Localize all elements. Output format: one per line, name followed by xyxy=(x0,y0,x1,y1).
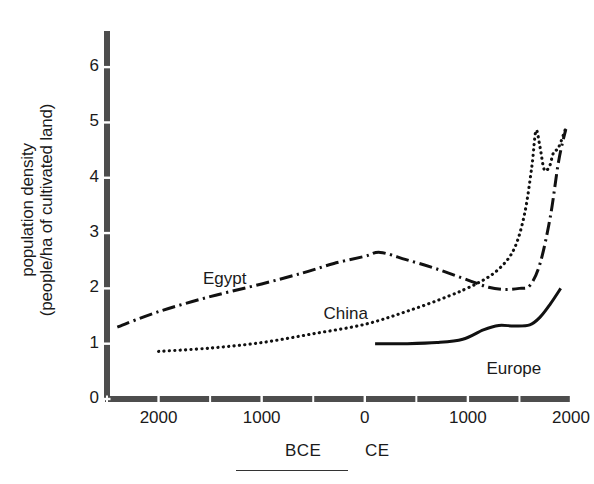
x-axis-caption-bce: BCE xyxy=(285,441,321,461)
x-tick-label-3: 1000 xyxy=(438,408,498,428)
series-line-egypt xyxy=(117,129,566,327)
series-label-china: China xyxy=(324,304,368,324)
series-line-europe xyxy=(375,288,561,343)
y-tick-label-0: 0 xyxy=(77,388,99,408)
x-tick-label-0: 2000 xyxy=(129,408,189,428)
y-tick-label-3: 3 xyxy=(77,222,99,242)
y-tick-label-2: 2 xyxy=(77,277,99,297)
y-tick-label-6: 6 xyxy=(77,56,99,76)
y-tick-label-5: 5 xyxy=(77,111,99,131)
y-tick-label-4: 4 xyxy=(77,167,99,187)
x-axis-caption-ce: CE xyxy=(365,441,389,461)
x-tick-label-4: 2000 xyxy=(541,408,594,428)
x-tick-label-2: 0 xyxy=(335,408,395,428)
footer-rule xyxy=(236,470,348,471)
x-tick-label-1: 1000 xyxy=(232,408,292,428)
y-tick-label-1: 1 xyxy=(77,333,99,353)
series-label-egypt: Egypt xyxy=(203,269,246,289)
series-label-europe: Europe xyxy=(486,359,541,379)
